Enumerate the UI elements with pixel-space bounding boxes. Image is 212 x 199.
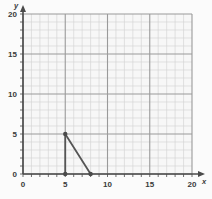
y-tick-label: 10 bbox=[8, 90, 17, 99]
data-point-marker-base-right bbox=[88, 172, 92, 176]
y-axis-arrow-icon bbox=[20, 5, 26, 12]
x-tick-label: 5 bbox=[63, 180, 68, 189]
coordinate-plane-svg: 05101520 05101520 y x bbox=[0, 0, 212, 199]
graph-figure: 05101520 05101520 y x bbox=[0, 0, 212, 199]
x-tick-label: 15 bbox=[145, 180, 154, 189]
data-point-marker-base-left bbox=[63, 172, 67, 176]
y-tick-label: 15 bbox=[8, 50, 17, 59]
x-tick-label: 10 bbox=[103, 180, 112, 189]
data-point-marker-apex bbox=[63, 132, 67, 136]
x-tick-labels: 05101520 bbox=[21, 180, 197, 189]
x-axis-label: x bbox=[201, 177, 207, 186]
y-tick-label: 5 bbox=[13, 130, 18, 139]
y-tick-label: 0 bbox=[13, 170, 18, 179]
x-tick-label: 20 bbox=[188, 180, 197, 189]
y-tick-labels: 05101520 bbox=[8, 10, 17, 179]
x-tick-label: 0 bbox=[21, 180, 26, 189]
y-tick-label: 20 bbox=[8, 10, 17, 19]
y-axis-label: y bbox=[13, 1, 19, 10]
